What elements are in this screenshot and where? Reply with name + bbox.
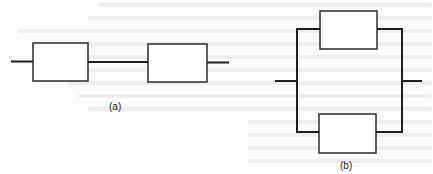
parallel-block-bottom: [319, 114, 376, 153]
subfigure-label-a: (a): [109, 102, 121, 112]
parallel-right-bus: [376, 29, 402, 132]
parallel-block-top: [320, 11, 377, 49]
subfigure-label-b: (b): [340, 161, 352, 171]
parallel-diagram: [0, 0, 433, 174]
scanned-page: (a) (b): [0, 0, 433, 174]
parallel-left-bus: [297, 29, 320, 132]
